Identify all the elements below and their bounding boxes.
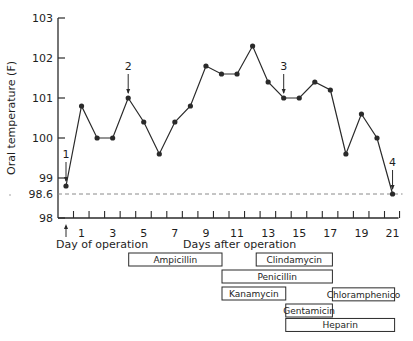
drug-bar-label: Chloramphenico [327,290,401,300]
data-point [390,191,395,196]
y-tick-label: 99 [39,172,53,185]
data-point [188,103,193,108]
data-point [172,119,177,124]
y-tick-label: 103 [32,12,53,25]
data-point [95,135,100,140]
data-point [328,87,333,92]
data-point [157,151,162,156]
drug-bar-label: Kanamycin [229,289,279,299]
data-point [266,79,271,84]
x-tick-label: 19 [354,227,368,240]
annotation-arrowhead-icon [282,89,286,94]
y-tick-label: 102 [32,52,53,65]
temperature-chart: 989910010110210398.6 13579111315171921 1… [0,0,413,341]
drug-bars: AmpicillinClindamycinPenicillinKanamycin… [129,253,401,331]
annotations: 1234 [63,60,397,190]
temperature-line [66,46,393,194]
x-tick-label: 17 [323,227,337,240]
operation-arrowhead-icon [64,224,68,229]
drug-bar-ampicillin: Ampicillin [129,253,222,266]
y-tick-label: 101 [32,92,53,105]
y-tick-label: 98 [39,212,53,225]
data-point [110,135,115,140]
data-point [359,111,364,116]
data-point [234,71,239,76]
x-tick-label: 7 [171,227,178,240]
annotation-label: 4 [389,156,396,169]
x-axis-title: Days after operation [183,238,296,251]
y-tick-label: 100 [32,132,53,145]
drug-bar-clindamycin: Clindamycin [256,253,332,266]
data-point [343,151,348,156]
drug-bar-label: Gentamicin [283,306,335,316]
annotation-label: 1 [63,148,70,161]
drug-bar-kanamycin: Kanamycin [222,287,286,300]
drug-bar-gentamicin: Gentamicin [283,304,335,317]
data-point [281,95,286,100]
x-tick-label: 21 [386,227,400,240]
drug-bar-heparin: Heparin [286,318,395,331]
data-point [219,71,224,76]
drug-bar-label: Clindamycin [267,255,322,265]
reference-dot [9,194,11,196]
data-point [374,135,379,140]
drug-bar-chloramphenico: Chloramphenico [327,288,401,301]
data-point [63,183,68,188]
data-point [250,43,255,48]
annotation-arrowhead-icon [126,89,130,94]
data-point [126,95,131,100]
y-axis-title: Oral temperature (F) [5,61,18,175]
data-point [79,103,84,108]
x-axis: 13579111315171921 [58,211,400,240]
drug-bar-label: Heparin [322,320,357,330]
annotation-label: 2 [125,60,132,73]
drug-bar-label: Penicillin [257,272,297,282]
x-axis-secondary-label: Day of operation [56,238,148,251]
data-point [297,95,302,100]
data-point [312,79,317,84]
data-point [203,63,208,68]
drug-bar-label: Ampicillin [153,255,197,265]
y-reference-label: 98.6 [29,188,54,201]
data-point [141,119,146,124]
annotation-label: 3 [280,60,287,73]
data-series [63,43,395,196]
drug-bar-penicillin: Penicillin [222,270,332,283]
